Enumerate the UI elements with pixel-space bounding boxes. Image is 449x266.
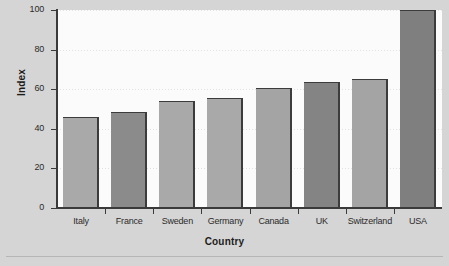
- gridline: [57, 50, 442, 51]
- y-axis-tick: [51, 89, 56, 90]
- y-axis-tick: [51, 10, 56, 11]
- bar-chart-figure: Index Country 020406080100ItalyFranceSwe…: [0, 0, 449, 266]
- bar-canada: [256, 88, 292, 208]
- gridline: [57, 10, 442, 11]
- x-axis-tick: [153, 209, 154, 214]
- x-axis-tick: [346, 209, 347, 214]
- bar-france: [111, 112, 147, 208]
- y-axis-tick: [51, 168, 56, 169]
- x-axis-tick-label: Italy: [57, 216, 105, 226]
- y-axis-tick-label: 40: [18, 123, 44, 133]
- x-axis-tick-label: Sweden: [153, 216, 201, 226]
- bar-switzerland: [352, 79, 388, 208]
- y-axis-tick-label: 20: [18, 162, 44, 172]
- y-axis-tick: [51, 129, 56, 130]
- y-axis-tick: [51, 208, 56, 209]
- x-axis-tick-label: UK: [298, 216, 346, 226]
- bar-usa: [400, 10, 436, 208]
- x-axis-tick-label: France: [105, 216, 153, 226]
- bar-uk: [304, 82, 340, 208]
- x-axis-tick: [105, 209, 106, 214]
- y-axis-tick-label: 80: [18, 44, 44, 54]
- x-axis-tick: [298, 209, 299, 214]
- x-axis-tick-label: Switzerland: [346, 216, 394, 226]
- bar-italy: [63, 117, 99, 208]
- plot-inner: [57, 10, 442, 208]
- x-axis-tick-label: USA: [394, 216, 442, 226]
- x-axis-tick: [394, 209, 395, 214]
- y-axis-tick-label: 0: [18, 202, 44, 212]
- y-axis-tick-label: 60: [18, 83, 44, 93]
- page-divider: [6, 256, 443, 257]
- y-axis-tick: [51, 50, 56, 51]
- x-axis-title: Country: [0, 236, 449, 247]
- plot-area: [57, 10, 442, 208]
- x-axis-tick-label: Germany: [201, 216, 249, 226]
- x-axis-tick: [250, 209, 251, 214]
- y-axis-line: [56, 9, 58, 209]
- bar-germany: [207, 98, 243, 208]
- y-axis-tick-label: 100: [18, 4, 44, 14]
- bar-sweden: [159, 101, 195, 208]
- x-axis-tick: [201, 209, 202, 214]
- x-axis-tick-label: Canada: [250, 216, 298, 226]
